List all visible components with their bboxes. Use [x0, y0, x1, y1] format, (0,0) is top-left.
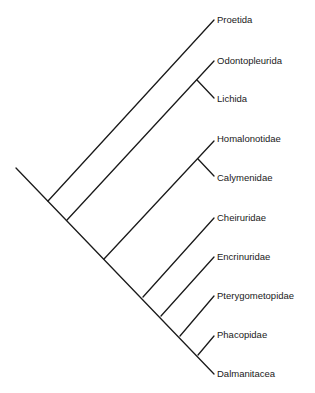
taxon-label-proetida: Proetida — [217, 15, 252, 25]
branch-pterygometopidae — [180, 296, 214, 336]
taxon-label-encrinuridae: Encrinuridae — [217, 252, 270, 262]
taxon-label-pterygometopidae: Pterygometopidae — [217, 291, 294, 301]
branch-proetida — [48, 20, 214, 201]
taxon-label-homalonotidae: Homalonotidae — [217, 134, 281, 144]
cladogram-diagram: Proetida Odontopleurida Lichida Homalono… — [0, 0, 315, 393]
branch-calymenidae — [198, 159, 214, 176]
taxon-label-calymenidae: Calymenidae — [217, 173, 272, 183]
taxon-label-lichida: Lichida — [217, 94, 247, 104]
taxon-label-cheiruridae: Cheiruridae — [217, 213, 266, 223]
taxon-label-odontopleurida: Odontopleurida — [217, 56, 282, 66]
taxon-label-phacopidae: Phacopidae — [217, 330, 267, 340]
branch-lichida — [197, 80, 214, 98]
branch-odontopleurida — [67, 61, 214, 220]
branch-spine — [16, 168, 214, 374]
branch-phacopidae — [198, 336, 214, 355]
branch-cheiruridae — [143, 218, 214, 297]
branch-encrinuridae — [161, 257, 214, 316]
taxon-label-dalmanitacea: Dalmanitacea — [217, 369, 275, 379]
